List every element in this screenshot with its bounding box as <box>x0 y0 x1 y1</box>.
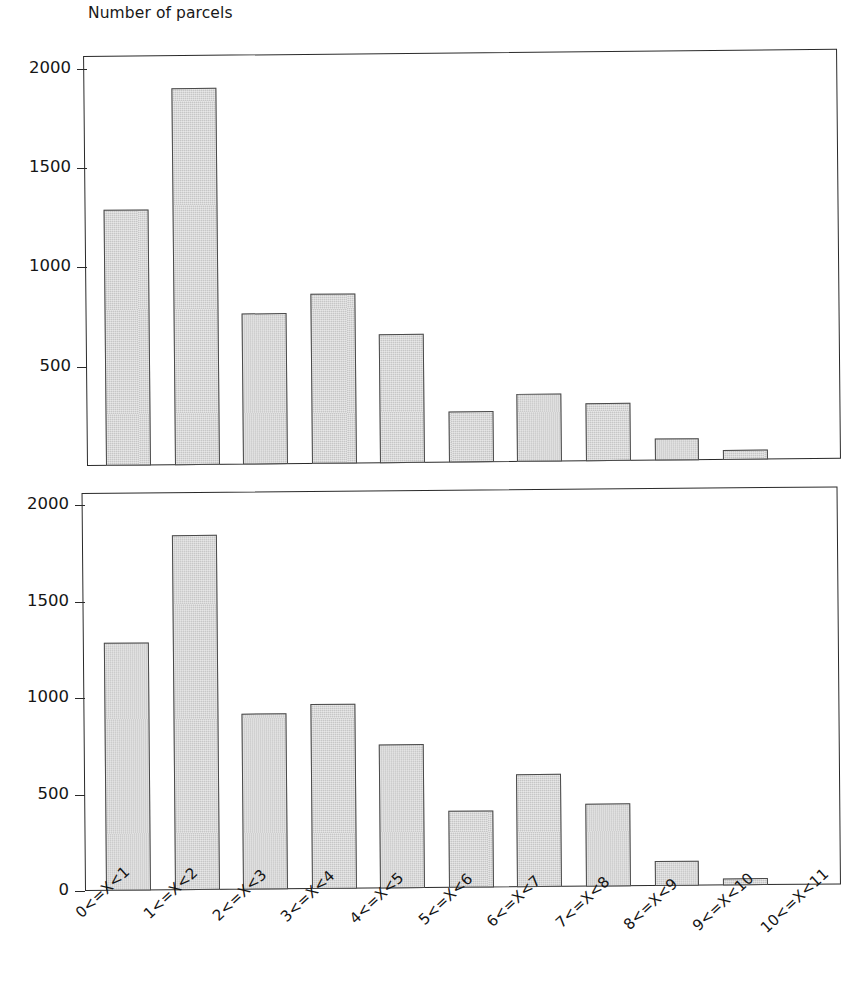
bar <box>379 334 425 463</box>
bar <box>310 294 357 464</box>
bar <box>585 403 630 461</box>
y-axis-tick <box>75 795 85 796</box>
y-axis-tick-label: 1500 <box>11 591 69 610</box>
chart-panel-top: 200015001000500 <box>0 40 861 480</box>
bar <box>171 88 220 465</box>
y-axis-tick-label: 1000 <box>11 687 69 706</box>
y-axis-tick <box>75 698 85 699</box>
bar <box>723 450 768 460</box>
bar-series-bottom <box>84 486 841 891</box>
bar <box>448 411 493 462</box>
bar <box>379 744 425 888</box>
figure-canvas: Number of parcels 200015001000500 200015… <box>0 0 861 1006</box>
bar <box>516 774 562 887</box>
x-axis-tick-labels: 0<=X<11<=X<22<=X<33<=X<44<=X<55<=X<66<=X… <box>0 900 861 1006</box>
bar <box>310 704 357 889</box>
y-axis-tick-label: 2000 <box>13 58 71 77</box>
bar <box>172 535 220 891</box>
chart-panel-bottom: 2000150010005000 <box>0 480 861 900</box>
bar <box>654 438 699 461</box>
bar <box>242 313 288 465</box>
bar <box>517 393 563 462</box>
bar <box>104 210 151 466</box>
bar <box>104 642 151 891</box>
y-axis-tick <box>75 891 85 892</box>
bar-series-top <box>83 49 841 466</box>
y-axis-tick-label: 500 <box>11 784 69 803</box>
bar <box>585 803 631 887</box>
y-axis-tick-label: 1500 <box>13 157 71 176</box>
y-axis-tick-label: 1000 <box>13 256 71 275</box>
bar <box>242 713 288 890</box>
page-title: Number of parcels <box>88 4 233 22</box>
y-axis-tick-label: 0 <box>11 880 69 899</box>
y-axis-tick-label: 2000 <box>11 494 69 513</box>
y-axis-tick-label: 500 <box>13 356 71 375</box>
